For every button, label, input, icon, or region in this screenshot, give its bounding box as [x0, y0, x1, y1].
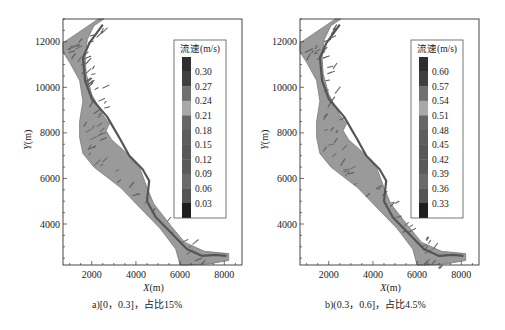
legend-label: 0.45 — [432, 140, 449, 150]
legend-swatch — [419, 145, 428, 160]
y-tick-label: 10000 — [35, 82, 60, 93]
legend-title: 流速(m/s) — [180, 43, 220, 55]
velocity-map-b: 2000400060008000X(m)12000100008000600040… — [237, 0, 489, 330]
x-axis-label: X(m) — [142, 282, 164, 294]
legend-swatch — [419, 130, 428, 145]
x-axis: 2000400060008000X(m) — [307, 261, 473, 294]
x-tick-label: 2000 — [82, 269, 102, 280]
legend-label: 0.30 — [195, 67, 212, 77]
legend-label: 0.15 — [195, 140, 212, 150]
velocity-map-a: 2000400060008000X(m)12000100008000600040… — [0, 0, 252, 330]
legend-swatch — [182, 188, 191, 203]
legend-swatch — [419, 115, 428, 130]
y-tick-label: 8000 — [277, 127, 297, 138]
legend: 流速(m/s)0.300.270.240.210.180.150.120.090… — [174, 40, 226, 218]
legend: 流速(m/s)0.600.570.540.510.480.450.420.390… — [411, 40, 463, 218]
legend-swatch — [182, 115, 191, 130]
panel-b: 2000400060008000X(m)12000100008000600040… — [237, 0, 489, 330]
legend-swatch — [419, 86, 428, 101]
y-tick-label: 4000 — [40, 219, 60, 230]
legend-label: 0.33 — [432, 199, 449, 209]
legend-label: 0.12 — [195, 155, 212, 165]
legend-swatch — [419, 57, 428, 72]
y-tick-label: 8000 — [40, 127, 60, 138]
legend-label: 0.39 — [432, 169, 449, 179]
legend-swatch — [182, 86, 191, 101]
x-axis: 2000400060008000X(m) — [70, 261, 236, 294]
x-tick-label: 6000 — [407, 269, 427, 280]
legend-label: 0.06 — [195, 184, 212, 194]
legend-label: 0.54 — [432, 96, 449, 106]
legend-swatch — [419, 72, 428, 87]
y-axis: 1200010000800060004000Y(m) — [259, 19, 304, 258]
x-tick-label: 6000 — [170, 269, 190, 280]
legend-label: 0.36 — [432, 184, 449, 194]
legend-swatch — [182, 130, 191, 145]
caption-a: a)[0，0.3]，占比15% — [92, 296, 182, 311]
legend-label: 0.60 — [432, 67, 449, 77]
x-tick-label: 4000 — [363, 269, 383, 280]
legend-label: 0.03 — [195, 199, 212, 209]
legend-label: 0.27 — [195, 82, 212, 92]
legend-swatch — [419, 188, 428, 203]
legend-swatch — [182, 101, 191, 116]
legend-label: 0.18 — [195, 126, 212, 136]
legend-swatch — [419, 174, 428, 189]
legend-swatch — [182, 203, 191, 218]
y-tick-label: 12000 — [272, 36, 297, 47]
panel-a: 2000400060008000X(m)12000100008000600040… — [0, 0, 252, 330]
x-tick-label: 4000 — [126, 269, 146, 280]
x-tick-label: 8000 — [451, 269, 471, 280]
y-tick-label: 4000 — [277, 219, 297, 230]
y-axis-label: Y(m) — [259, 130, 271, 150]
y-tick-label: 12000 — [35, 36, 60, 47]
legend-label: 0.09 — [195, 169, 212, 179]
caption-b: b)(0.3，0.6]，占比4.5% — [325, 296, 426, 311]
x-tick-label: 8000 — [214, 269, 234, 280]
legend-swatch — [419, 203, 428, 218]
legend-label: 0.57 — [432, 82, 449, 92]
legend-label: 0.21 — [195, 111, 212, 121]
legend-label: 0.24 — [195, 96, 212, 106]
legend-swatch — [419, 101, 428, 116]
legend-swatch — [419, 159, 428, 174]
legend-swatch — [182, 57, 191, 72]
y-axis-label: Y(m) — [22, 130, 34, 150]
legend-label: 0.42 — [432, 155, 449, 165]
y-tick-label: 6000 — [40, 173, 60, 184]
legend-title: 流速(m/s) — [417, 43, 457, 55]
legend-swatch — [182, 72, 191, 87]
x-tick-label: 2000 — [319, 269, 339, 280]
legend-swatch — [182, 159, 191, 174]
legend-label: 0.51 — [432, 111, 449, 121]
legend-label: 0.48 — [432, 126, 449, 136]
x-axis-label: X(m) — [379, 282, 401, 294]
y-tick-label: 6000 — [277, 173, 297, 184]
legend-swatch — [182, 174, 191, 189]
y-axis: 1200010000800060004000Y(m) — [22, 19, 67, 258]
y-tick-label: 10000 — [272, 82, 297, 93]
legend-swatch — [182, 145, 191, 160]
